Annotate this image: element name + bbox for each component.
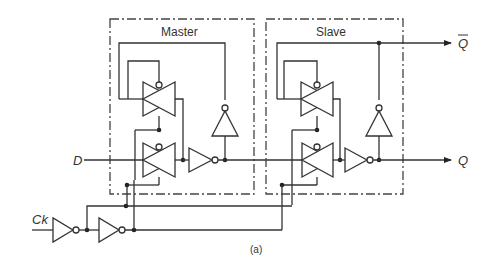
master-slave-flip-flop-diagram: Master — [0, 0, 484, 268]
q-bar-output-label: Q — [458, 36, 468, 51]
slave-boundary — [266, 19, 403, 194]
slave-feedback-inverter-icon — [366, 105, 392, 136]
master-label: Master — [161, 25, 198, 39]
slave-block: Slave — [266, 19, 403, 205]
clock-inverter-1-icon — [53, 218, 79, 242]
master-upper-transmission-gate-icon — [143, 82, 175, 116]
master-feedback-inverter-icon — [212, 105, 238, 136]
master-lower-transmission-gate-icon — [143, 143, 175, 177]
clock-inverter-2-icon — [99, 218, 125, 242]
slave-upper-transmission-gate-icon — [301, 82, 333, 116]
slave-lower-transmission-gate-icon — [302, 143, 333, 177]
master-forward-inverter-icon — [189, 148, 218, 172]
master-block: Master — [110, 19, 254, 194]
slave-label: Slave — [316, 25, 346, 39]
q-output-label: Q — [458, 153, 468, 168]
ck-input-label: Ck — [32, 212, 49, 227]
master-boundary — [110, 19, 254, 194]
clock-bar-line — [87, 206, 292, 230]
slave-forward-inverter-icon — [345, 148, 373, 172]
figure-caption: (a) — [250, 244, 262, 255]
d-input-label: D — [73, 153, 82, 168]
